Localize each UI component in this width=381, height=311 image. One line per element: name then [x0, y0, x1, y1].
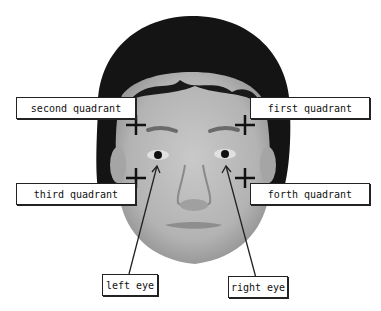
- label-left-eye: left eye: [102, 274, 158, 296]
- label-right-eye: right eye: [228, 276, 288, 298]
- face-diagram: second quadrant first quadrant third qua…: [0, 0, 381, 311]
- label-first-quadrant: first quadrant: [250, 97, 370, 119]
- face-illustration: [0, 0, 381, 311]
- label-second-quadrant: second quadrant: [16, 97, 136, 119]
- label-forth-quadrant: forth quadrant: [250, 183, 370, 205]
- label-third-quadrant: third quadrant: [16, 183, 136, 205]
